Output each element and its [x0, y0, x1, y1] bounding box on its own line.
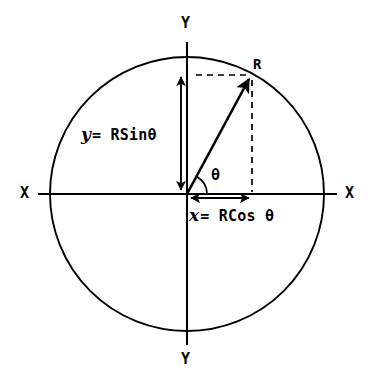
angle-arc [197, 177, 208, 195]
y-expression: RSinθ [111, 126, 157, 144]
y-variable-glyph: y [81, 124, 92, 144]
x-component-equation: x= RCos θ [189, 207, 274, 224]
y-axis-label-bottom: Y [181, 352, 190, 367]
y-component-equation: y= RSinθ [81, 126, 157, 143]
diagram-canvas [0, 0, 375, 379]
x-expression: RCos θ [219, 207, 274, 225]
y-equals-sign: = [92, 126, 101, 144]
y-axis-label-top: Y [181, 16, 190, 31]
x-axis-label-left: X [20, 186, 29, 201]
trig-circle-diagram: X X Y Y R θ y= RSinθ x= RCos θ [0, 0, 375, 379]
angle-theta-label: θ [211, 168, 220, 183]
x-axis-label-right: X [345, 186, 354, 201]
radius-vector-label: R [253, 57, 261, 71]
x-variable-glyph: x [189, 205, 200, 225]
x-equals-sign: = [200, 207, 209, 225]
